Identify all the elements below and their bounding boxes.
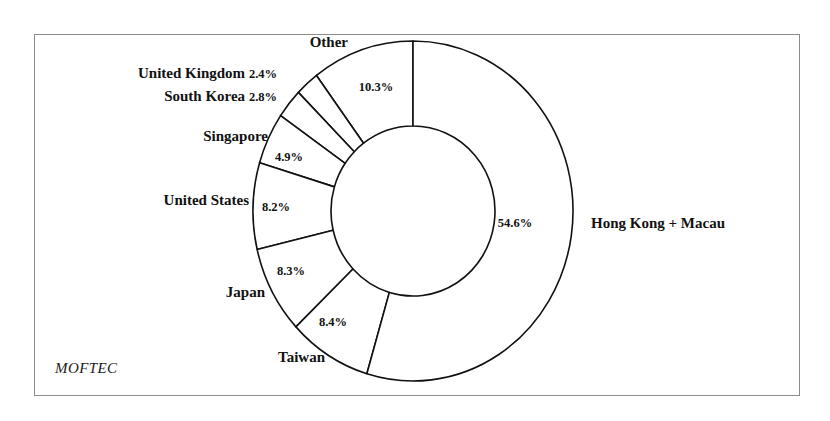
slice-category-label: Singapore [203, 128, 268, 144]
slice-category-label: United States [164, 192, 250, 208]
figure-root: 10.3%4.9%8.2%8.3%8.4%54.6% OtherUnited K… [0, 0, 830, 421]
pie-slices-group [253, 41, 573, 381]
slice-value-label: 54.6% [498, 216, 532, 230]
slice-category-label: Hong Kong + Macau [591, 215, 725, 231]
slice-category-label: South Korea 2.8% [164, 88, 277, 104]
slice-value-label: 8.3% [277, 264, 305, 278]
slice-category-label: Other [310, 34, 349, 50]
slice-value-label: 8.2% [262, 200, 290, 214]
source-attribution-label: MOFTEC [55, 360, 117, 377]
donut-chart[interactable]: 10.3%4.9%8.2%8.3%8.4%54.6% OtherUnited K… [0, 0, 830, 421]
slice-category-label: United Kingdom 2.4% [138, 65, 277, 81]
slice-category-label: Taiwan [278, 349, 326, 365]
slice-category-label: Japan [226, 284, 266, 300]
slice-value-label: 10.3% [359, 80, 393, 94]
slice-value-label: 8.4% [319, 315, 347, 329]
slice-value-label: 4.9% [275, 150, 303, 164]
